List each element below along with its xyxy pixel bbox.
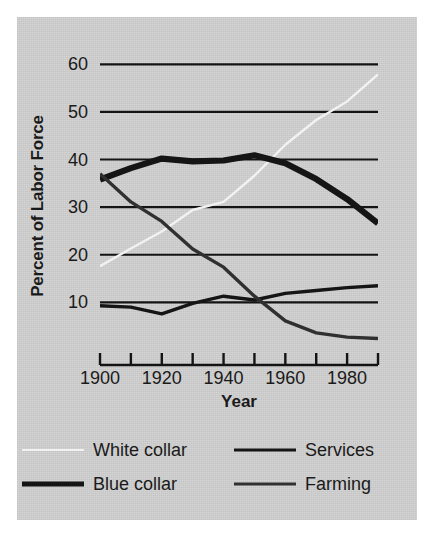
series-line-white-collar — [100, 74, 378, 266]
legend-line-sample — [234, 449, 296, 452]
legend-item-farming: Farming — [234, 471, 371, 497]
y-tick-label: 30 — [54, 198, 88, 216]
legend-label-blue-collar: Blue collar — [93, 474, 177, 495]
legend-item-blue-collar: Blue collar — [22, 471, 177, 497]
x-tick-label: 1940 — [194, 368, 254, 389]
y-tick-label: 50 — [54, 103, 88, 121]
legend-swatch-services — [234, 443, 296, 457]
legend-line-sample — [22, 449, 84, 451]
x-tick-label: 1980 — [317, 368, 377, 389]
chart-legend: White collar Services Blue collar Farmin… — [22, 437, 414, 499]
y-tick-label: 10 — [54, 293, 88, 311]
legend-item-white-collar: White collar — [22, 437, 187, 463]
y-tick-label: 20 — [54, 246, 88, 264]
series-line-farming — [100, 174, 378, 339]
x-axis-title: Year — [100, 392, 378, 412]
plot-area — [100, 50, 378, 350]
legend-label-farming: Farming — [305, 474, 371, 495]
x-tick-label: 1900 — [70, 368, 130, 389]
series-canvas — [100, 50, 378, 350]
legend-label-white-collar: White collar — [93, 440, 187, 461]
y-tick-label: 40 — [54, 151, 88, 169]
legend-line-sample — [234, 483, 296, 486]
legend-label-services: Services — [305, 440, 374, 461]
x-tick-label: 1920 — [132, 368, 192, 389]
legend-swatch-blue-collar — [22, 477, 84, 491]
y-axis-title: Percent of Labor Force — [28, 106, 48, 306]
legend-item-services: Services — [234, 437, 374, 463]
series-line-services — [100, 286, 378, 314]
gridlines — [100, 64, 378, 302]
legend-swatch-white-collar — [22, 443, 84, 457]
chart-figure: Percent of Labor Force 605040302010 1900… — [0, 0, 434, 534]
y-tick-label: 60 — [54, 55, 88, 73]
legend-line-sample — [22, 482, 84, 487]
legend-swatch-farming — [234, 477, 296, 491]
x-tick-label: 1960 — [255, 368, 315, 389]
